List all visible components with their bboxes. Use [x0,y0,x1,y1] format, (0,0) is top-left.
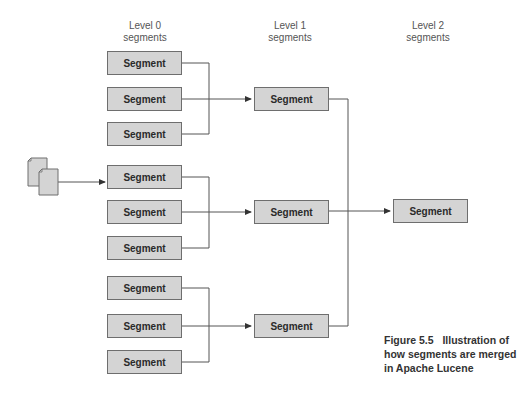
level0-segment-7: Segment [107,276,182,300]
level0-segment-9: Segment [107,350,182,374]
level0-segment-4: Segment [107,165,182,189]
level0-segment-2: Segment [107,87,182,111]
caption-text-1: Illustration of [442,334,509,346]
figure-number: Figure 5.5 [384,334,434,346]
level0-segment-5: Segment [107,200,182,224]
figure-caption: Figure 5.5 Illustration of how segments … [384,333,524,375]
level1-segment-3: Segment [254,314,329,338]
level0-segment-1: Segment [107,51,182,75]
level1-segment-1: Segment [254,87,329,111]
level0-segment-8: Segment [107,314,182,338]
caption-line-3: in Apache Lucene [384,361,524,375]
level1-segment-2: Segment [254,200,329,224]
level0-segment-6: Segment [107,236,182,260]
caption-line-2: how segments are merged [384,347,524,361]
documents-icon [0,0,70,205]
caption-line-1: Figure 5.5 Illustration of [384,333,524,347]
level2-segment-1: Segment [393,199,468,223]
level0-segment-3: Segment [107,122,182,146]
